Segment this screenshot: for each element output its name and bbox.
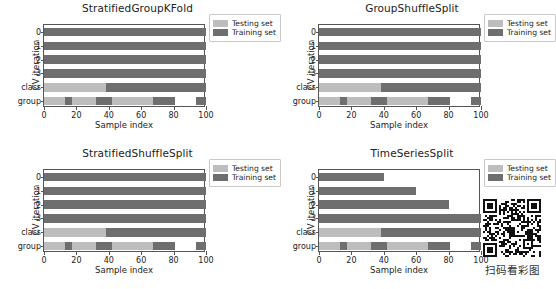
y-axis-tick bbox=[41, 232, 44, 233]
x-axis-tick bbox=[109, 251, 110, 255]
x-axis-tick bbox=[481, 251, 482, 255]
training-segment bbox=[44, 42, 206, 51]
plot-area: 0123classgroup020406080100Sample index bbox=[318, 24, 480, 107]
legend-item-training: Training set bbox=[488, 173, 551, 182]
y-axis-title: CV iteration bbox=[306, 34, 316, 96]
training-segment bbox=[471, 97, 481, 106]
training-segment bbox=[428, 97, 451, 106]
training-segment bbox=[65, 242, 71, 251]
testing-segment bbox=[44, 228, 106, 237]
cv-row-bar bbox=[319, 200, 479, 209]
training-segment bbox=[44, 69, 206, 78]
x-axis-tick bbox=[141, 251, 142, 255]
training-segment bbox=[44, 187, 206, 196]
x-axis-tick bbox=[416, 106, 417, 110]
y-axis-tick bbox=[316, 73, 319, 74]
cv-row-bar bbox=[44, 200, 204, 209]
training-segment bbox=[44, 173, 206, 182]
qr-code-image bbox=[483, 199, 541, 257]
x-axis-tick bbox=[174, 106, 175, 110]
training-segment bbox=[371, 97, 387, 106]
training-swatch bbox=[213, 174, 228, 181]
training-segment bbox=[96, 97, 112, 106]
training-swatch bbox=[213, 29, 228, 36]
cv-row-bar bbox=[319, 187, 479, 196]
training-segment bbox=[319, 28, 481, 37]
training-segment bbox=[106, 83, 206, 92]
legend-item-training: Training set bbox=[488, 28, 551, 37]
training-segment bbox=[340, 242, 346, 251]
cv-row-bar bbox=[44, 28, 204, 37]
y-axis-tick bbox=[316, 60, 319, 61]
legend-item-testing: Testing set bbox=[488, 164, 551, 173]
testing-segment bbox=[112, 242, 153, 251]
x-axis-tick-label: 100 bbox=[473, 111, 488, 120]
cv-plot-panel: StratifiedGroupKFold0123classgroup020406… bbox=[0, 0, 275, 145]
training-segment bbox=[196, 97, 206, 106]
y-axis-tick bbox=[41, 218, 44, 219]
training-swatch bbox=[488, 29, 503, 36]
cv-plot-panel: GroupShuffleSplit0123classgroup020406080… bbox=[275, 0, 549, 145]
panel-title: TimeSeriesSplit bbox=[275, 147, 549, 159]
y-axis-tick-label: group bbox=[293, 242, 316, 251]
testing-segment bbox=[72, 242, 96, 251]
x-axis-title: Sample index bbox=[319, 265, 479, 275]
testing-segment bbox=[387, 97, 428, 106]
y-axis-tick bbox=[41, 246, 44, 247]
legend-label: Training set bbox=[232, 28, 276, 37]
testing-segment bbox=[72, 97, 96, 106]
x-axis-tick-label: 40 bbox=[104, 111, 114, 120]
cv-row-bar bbox=[44, 228, 204, 237]
y-axis-tick bbox=[316, 32, 319, 33]
training-segment bbox=[196, 242, 206, 251]
testing-swatch bbox=[488, 20, 503, 27]
x-axis-tick-label: 40 bbox=[104, 256, 114, 265]
x-axis-tick-label: 40 bbox=[379, 256, 389, 265]
x-axis-tick bbox=[481, 106, 482, 110]
cv-row-bar bbox=[319, 228, 479, 237]
qr-code-block: 扫码看彩图 bbox=[483, 199, 541, 277]
empty-segment bbox=[450, 97, 471, 106]
cv-row-bar bbox=[319, 173, 479, 182]
cv-row-bar bbox=[44, 83, 204, 92]
y-axis-tick bbox=[316, 246, 319, 247]
testing-segment bbox=[347, 242, 371, 251]
cv-row-bar bbox=[44, 97, 204, 106]
legend: Testing setTraining set bbox=[209, 159, 281, 187]
training-segment bbox=[471, 242, 481, 251]
y-axis-tick-label: group bbox=[18, 97, 41, 106]
legend-item-testing: Testing set bbox=[213, 164, 276, 173]
y-axis-tick bbox=[41, 177, 44, 178]
x-axis-tick-label: 80 bbox=[444, 111, 454, 120]
x-axis-tick-label: 40 bbox=[379, 111, 389, 120]
x-axis-tick bbox=[449, 106, 450, 110]
x-axis-tick-label: 80 bbox=[444, 256, 454, 265]
cv-plot-panel: StratifiedShuffleSplit0123classgroup0204… bbox=[0, 145, 275, 289]
panel-title: GroupShuffleSplit bbox=[275, 2, 549, 14]
cv-row-bar bbox=[319, 83, 479, 92]
cv-row-bar bbox=[319, 55, 479, 64]
y-axis-tick bbox=[41, 205, 44, 206]
y-axis-tick bbox=[41, 191, 44, 192]
training-segment bbox=[319, 214, 481, 223]
training-segment bbox=[381, 83, 481, 92]
y-axis-tick bbox=[41, 60, 44, 61]
y-axis-tick bbox=[41, 101, 44, 102]
x-axis-tick-label: 0 bbox=[316, 256, 321, 265]
training-segment bbox=[428, 242, 451, 251]
y-axis-tick bbox=[316, 87, 319, 88]
y-axis-tick-label: group bbox=[18, 242, 41, 251]
training-segment bbox=[106, 228, 206, 237]
y-axis-tick bbox=[316, 191, 319, 192]
x-axis-tick-label: 60 bbox=[411, 256, 421, 265]
y-axis-tick-label: group bbox=[293, 97, 316, 106]
x-axis-tick-label: 100 bbox=[198, 111, 213, 120]
testing-segment bbox=[319, 242, 340, 251]
x-axis-tick bbox=[109, 106, 110, 110]
training-segment bbox=[96, 242, 112, 251]
x-axis-tick-label: 0 bbox=[41, 256, 46, 265]
x-axis-tick bbox=[351, 251, 352, 255]
x-axis-tick bbox=[174, 251, 175, 255]
y-axis-tick bbox=[316, 205, 319, 206]
